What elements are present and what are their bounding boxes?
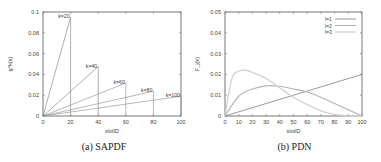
y-tick-label: 0.04	[210, 30, 221, 36]
y-tick-label: 0.02	[28, 92, 39, 98]
y-tick-label: 0.01	[210, 92, 221, 98]
x-tick-label: 80	[332, 119, 338, 125]
x-tick-label: 40	[95, 119, 101, 125]
x-tick-label: 40	[277, 119, 283, 125]
series-line-l-2	[225, 86, 362, 116]
sapdf-chart-panel: 00.020.040.060.080.1020406080100slotIDg^…	[0, 0, 190, 162]
series-label: k=20	[58, 13, 70, 19]
x-tick-label: 0	[41, 119, 44, 125]
y-tick-label: 0.08	[28, 30, 39, 36]
pdn-caption: (b) PDN	[190, 141, 381, 152]
series-line-k-100	[43, 96, 181, 116]
x-tick-label: 60	[304, 119, 310, 125]
plot-frame	[225, 12, 362, 116]
x-tick-label: 100	[176, 119, 185, 125]
y-tick-label: 0	[36, 113, 39, 119]
series-line-k-60	[43, 83, 126, 116]
sapdf-caption: (a) SAPDF	[0, 141, 190, 152]
series-label: k=80	[141, 87, 153, 93]
y-axis-label: g^k(x)	[7, 56, 13, 71]
x-tick-label: 70	[318, 119, 324, 125]
series-label: k=100	[166, 92, 180, 98]
x-tick-label: 90	[345, 119, 351, 125]
pdn-chart-panel: 00.010.020.030.040.050102030405060708090…	[190, 0, 381, 162]
x-axis-label: slotID	[286, 128, 300, 134]
legend-label: l=3	[325, 29, 332, 35]
sapdf-chart: 00.020.040.060.080.1020406080100slotIDg^…	[0, 0, 190, 140]
series-line-l-3	[225, 70, 362, 116]
x-tick-label: 50	[290, 119, 296, 125]
x-tick-label: 20	[249, 119, 255, 125]
y-tick-label: 0.05	[210, 9, 221, 15]
y-tick-label: 0.02	[210, 71, 221, 77]
x-tick-label: 10	[236, 119, 242, 125]
y-tick-label: 0.04	[28, 71, 39, 77]
x-axis-label: slotID	[105, 128, 119, 134]
x-tick-label: 100	[357, 119, 366, 125]
y-tick-label: 0.03	[210, 51, 221, 57]
x-tick-label: 20	[68, 119, 74, 125]
y-axis-label: F_j(k)	[194, 57, 200, 71]
series-label: k=40	[86, 63, 98, 69]
pdn-chart: 00.010.020.030.040.050102030405060708090…	[190, 0, 381, 140]
legend-label: l=1	[325, 16, 332, 22]
legend-label: l=2	[325, 23, 332, 29]
series-line-l-1	[225, 74, 362, 116]
y-tick-label: 0.1	[31, 9, 39, 15]
x-tick-label: 60	[123, 119, 129, 125]
x-tick-label: 80	[150, 119, 156, 125]
x-tick-label: 30	[263, 119, 269, 125]
series-line-k-20	[43, 17, 71, 116]
series-label: k=60	[113, 79, 125, 85]
x-tick-label: 0	[223, 119, 226, 125]
y-tick-label: 0.06	[28, 51, 39, 57]
y-tick-label: 0	[218, 113, 221, 119]
